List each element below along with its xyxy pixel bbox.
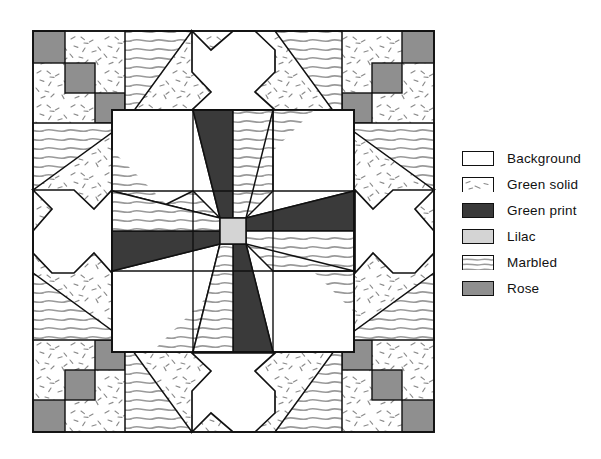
legend-label: Lilac — [507, 229, 536, 244]
swatch-rose-icon — [462, 281, 494, 296]
legend-label: Marbled — [507, 255, 557, 270]
swatch-green-print-icon — [462, 203, 494, 218]
rose-square — [402, 31, 434, 63]
cross-block — [33, 190, 112, 273]
rose-square — [402, 400, 434, 432]
rose-square — [33, 31, 65, 63]
legend-label: Background — [507, 151, 581, 166]
swatch-lilac-icon — [462, 229, 494, 244]
legend-item-marbled: Marbled — [462, 249, 597, 275]
swatch-green-solid-icon — [462, 177, 494, 192]
legend-item-green-solid: Green solid — [462, 171, 597, 197]
cross-block — [192, 31, 275, 110]
rose-square — [372, 63, 402, 93]
legend-label: Rose — [507, 281, 539, 296]
swatch-background-icon — [462, 151, 494, 166]
legend-item-lilac: Lilac — [462, 223, 597, 249]
legend-item-rose: Rose — [462, 275, 597, 301]
legend-label: Green solid — [507, 177, 578, 192]
cross-block — [355, 190, 434, 273]
legend-label: Green print — [507, 203, 577, 218]
legend-item-green-print: Green print — [462, 197, 597, 223]
rose-square — [65, 63, 95, 93]
diagram-root: Background Green solid Green print Lilac — [0, 0, 601, 459]
center-lilac-square — [220, 218, 246, 244]
rose-square — [65, 370, 95, 400]
swatch-marbled-icon — [462, 255, 494, 270]
rose-square — [372, 370, 402, 400]
cross-block — [192, 353, 275, 432]
rose-square — [33, 400, 65, 432]
legend-item-background: Background — [462, 145, 597, 171]
legend: Background Green solid Green print Lilac — [462, 145, 597, 301]
